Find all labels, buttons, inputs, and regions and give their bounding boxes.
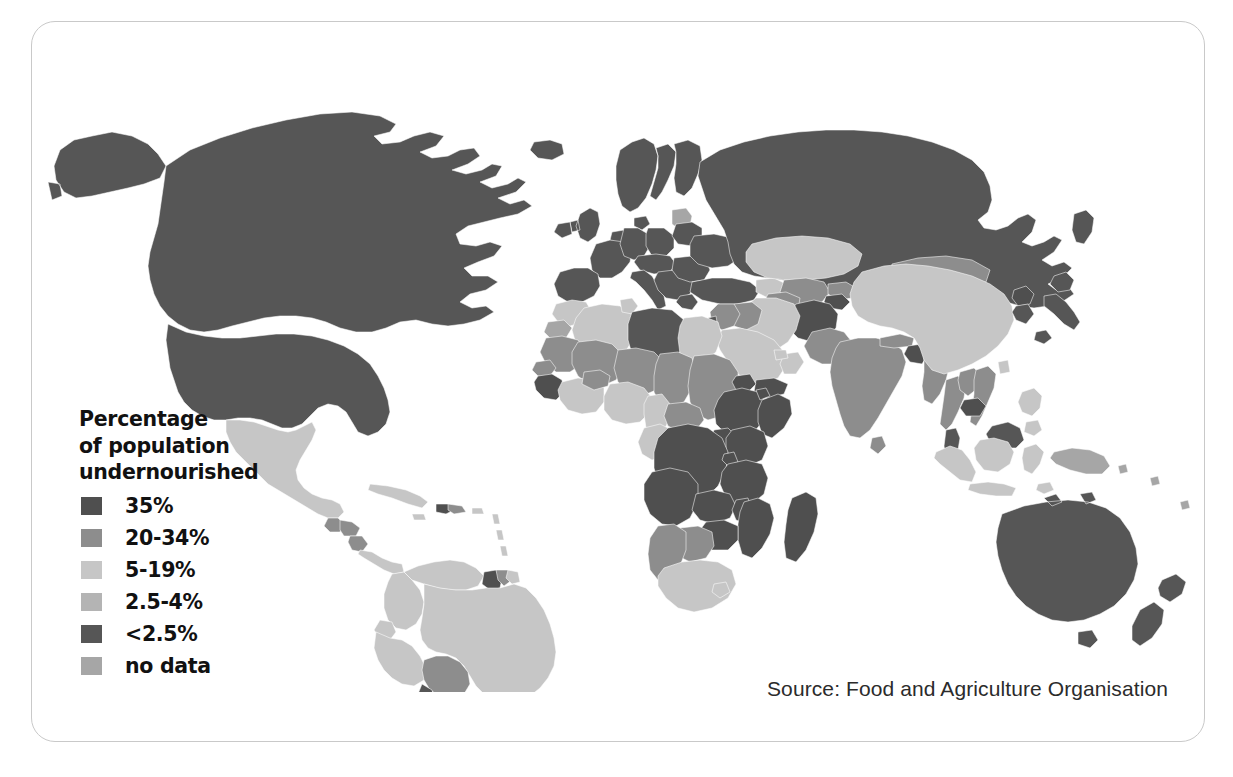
region-jamaica[interactable]: [412, 514, 426, 520]
region-canada[interactable]: [148, 112, 532, 332]
legend-title-line-2: of population: [79, 433, 319, 460]
region-island-dots: [1118, 464, 1190, 510]
region-poland[interactable]: [646, 228, 674, 256]
region-nicaragua[interactable]: [348, 536, 368, 552]
region-mozambique[interactable]: [738, 498, 774, 558]
region-indonesia-sulawesi[interactable]: [1022, 444, 1044, 474]
legend-swatch-lt-2-5: [81, 625, 102, 643]
legend-label-20-34: 20-34%: [125, 526, 209, 550]
legend-row[interactable]: 2.5-4%: [79, 586, 319, 618]
legend-swatch-35: [81, 497, 102, 515]
region-iceland[interactable]: [530, 140, 564, 160]
legend-swatch-no-data: [81, 657, 102, 675]
region-kazakhstan[interactable]: [746, 236, 862, 280]
region-peru[interactable]: [374, 632, 426, 686]
region-australia[interactable]: [996, 492, 1138, 622]
region-indonesia-kalimantan[interactable]: [974, 438, 1014, 472]
legend-row[interactable]: <2.5%: [79, 618, 319, 650]
region-new-zealand[interactable]: [1132, 574, 1186, 646]
region-papua-new-guinea[interactable]: [1050, 448, 1110, 474]
region-indonesia-java[interactable]: [968, 482, 1016, 496]
legend-label-2-5-4: 2.5-4%: [125, 590, 203, 614]
legend-label-5-19: 5-19%: [125, 558, 195, 582]
region-costa-rica-panama[interactable]: [358, 550, 404, 574]
legend-swatch-2-5-4: [81, 593, 102, 611]
region-taiwan[interactable]: [998, 360, 1010, 374]
region-finland[interactable]: [674, 140, 702, 196]
region-puerto-rico[interactable]: [472, 508, 484, 514]
legend-row[interactable]: 20-34%: [79, 522, 319, 554]
region-tasmania[interactable]: [1078, 630, 1098, 648]
region-madagascar[interactable]: [784, 492, 818, 562]
legend-label-lt-2-5: <2.5%: [125, 622, 198, 646]
legend-label-35: 35%: [125, 494, 173, 518]
region-uae-qatar[interactable]: [774, 350, 788, 360]
region-alaska[interactable]: [48, 132, 166, 200]
legend-swatch-20-34: [81, 529, 102, 547]
legend-title-line-1: Percentage: [79, 406, 319, 433]
legend-row[interactable]: 35%: [79, 490, 319, 522]
legend-rows: 35% 20-34% 5-19% 2.5-4% <2.5%: [79, 490, 319, 682]
map-card: Percentage of population undernourished …: [31, 21, 1205, 742]
legend-swatch-5-19: [81, 561, 102, 579]
region-angola[interactable]: [644, 468, 698, 526]
region-turkey[interactable]: [690, 278, 760, 304]
legend-row[interactable]: no data: [79, 650, 319, 682]
world-hunger-map-figure: Percentage of population undernourished …: [0, 0, 1233, 777]
region-philippines[interactable]: [1018, 388, 1042, 436]
legend-title-line-3: undernourished: [79, 459, 319, 486]
region-cuba[interactable]: [368, 484, 428, 508]
region-india[interactable]: [830, 338, 906, 438]
map-legend: Percentage of population undernourished …: [79, 406, 319, 682]
region-indonesia-sumatra[interactable]: [934, 446, 976, 482]
source-note: Source: Food and Agriculture Organisatio…: [767, 677, 1168, 701]
legend-row[interactable]: 5-19%: [79, 554, 319, 586]
region-timor[interactable]: [1036, 482, 1054, 494]
region-zambia[interactable]: [692, 490, 736, 524]
region-honduras[interactable]: [340, 520, 360, 536]
region-spain-portugal[interactable]: [554, 268, 600, 302]
region-ireland[interactable]: [554, 222, 572, 238]
region-lesser-antilles[interactable]: [492, 514, 508, 556]
region-dominican-republic[interactable]: [448, 504, 466, 514]
region-norway-sweden[interactable]: [616, 138, 676, 212]
region-kamchatka[interactable]: [1072, 210, 1094, 244]
region-sri-lanka[interactable]: [870, 436, 886, 454]
region-united-kingdom[interactable]: [570, 208, 600, 242]
legend-label-no-data: no data: [125, 654, 211, 678]
